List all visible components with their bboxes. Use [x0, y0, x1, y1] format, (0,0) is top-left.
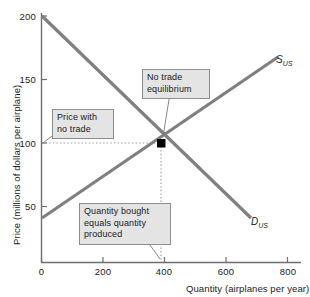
y-tick-marks	[42, 16, 48, 207]
plot-area	[0, 0, 310, 297]
x-tick-label-600: 600	[212, 266, 240, 277]
annotation-quantity-bought-equals-produced: Quantity bought equals quantity produced	[79, 203, 171, 245]
demand-curve-label: DUS	[251, 216, 268, 229]
x-tick-label-0: 0	[30, 266, 53, 277]
supply-demand-chart: 200 150 100 50 0 200 400 600 800 Price (…	[0, 0, 310, 297]
supply-curve-label-subscript: US	[283, 60, 293, 67]
y-tick-label-150: 150	[6, 74, 36, 85]
demand-curve-label-subscript: US	[258, 222, 268, 229]
annotation-price-with-no-trade: Price with no trade	[52, 109, 114, 139]
leader-line-price	[43, 136, 52, 143]
annotation-no-trade-equilibrium: No trade equilibrium	[142, 69, 210, 99]
x-tick-label-800: 800	[274, 266, 302, 277]
x-tick-label-400: 400	[150, 266, 178, 277]
x-tick-marks	[42, 257, 288, 263]
supply-curve-label-letter: S	[276, 54, 283, 65]
y-tick-label-200: 200	[6, 11, 36, 22]
equilibrium-marker	[157, 139, 166, 148]
x-tick-label-200: 200	[89, 266, 117, 277]
y-axis-title: Price (millions of dollars per airplane)	[11, 85, 22, 245]
x-axis-title: Quantity (airplanes per year)	[186, 283, 309, 294]
supply-curve-label: SUS	[276, 54, 292, 67]
